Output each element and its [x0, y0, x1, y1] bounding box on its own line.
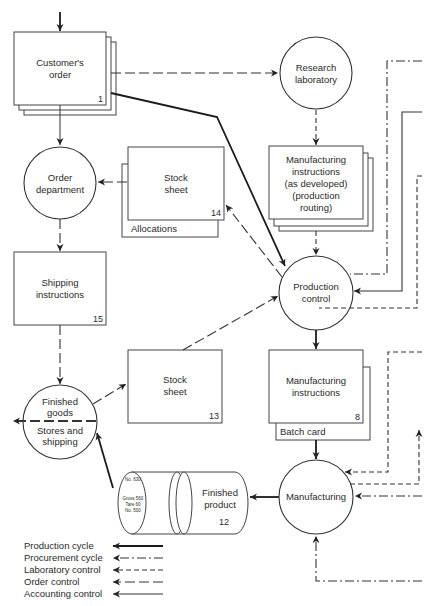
svg-text:department: department — [36, 184, 84, 195]
svg-text:No. 630: No. 630 — [125, 477, 141, 482]
goods-to-stock13-arrow — [93, 384, 126, 404]
product-to-goods-arrow — [97, 433, 113, 488]
svg-text:13: 13 — [209, 411, 219, 421]
svg-text:Manufacturing: Manufacturing — [286, 154, 346, 165]
stock-sheet-14-node: Stock sheet 14 Allocations — [122, 147, 224, 237]
legend-production-cycle: Production cycle — [24, 540, 94, 551]
svg-text:Shipping: Shipping — [42, 277, 79, 288]
svg-text:Finished: Finished — [202, 487, 238, 498]
svg-text:goods: goods — [47, 407, 73, 418]
procurement-line-bottom — [316, 536, 422, 581]
customers-order-node: Customer's order 1 — [14, 32, 116, 115]
allocations-label: Allocations — [131, 223, 177, 234]
svg-text:sheet: sheet — [163, 386, 187, 397]
svg-text:(production: (production — [292, 190, 340, 201]
customers-order-label: Customer's — [36, 57, 84, 68]
svg-text:instructions: instructions — [292, 166, 340, 177]
finished-goods-node: Finished goods Stores and shipping — [23, 385, 97, 459]
svg-text:laboratory: laboratory — [295, 74, 337, 85]
svg-text:Manufacturing: Manufacturing — [286, 375, 346, 386]
svg-text:product: product — [204, 499, 236, 510]
svg-text:Stores and: Stores and — [37, 425, 83, 436]
svg-text:routing): routing) — [300, 202, 332, 213]
svg-text:8: 8 — [355, 412, 360, 422]
svg-text:Production: Production — [293, 281, 338, 292]
svg-text:14: 14 — [211, 208, 221, 218]
legend: Production cycle Procurement cycle Labor… — [24, 540, 163, 599]
svg-text:Finished: Finished — [42, 396, 78, 407]
svg-text:Manufacturing: Manufacturing — [286, 491, 346, 502]
svg-text:Order: Order — [48, 172, 72, 183]
svg-text:control: control — [302, 293, 331, 304]
svg-text:15: 15 — [93, 314, 103, 324]
legend-accounting-control: Accounting control — [24, 588, 102, 599]
finished-product-node: No. 630 Gross 560 Tare 60 No. 500 Finish… — [118, 472, 248, 534]
svg-text:Gross 560: Gross 560 — [123, 496, 144, 501]
svg-text:(as developed): (as developed) — [285, 178, 348, 189]
svg-text:instructions: instructions — [36, 289, 84, 300]
svg-text:12: 12 — [219, 517, 229, 527]
production-control-node: Production control — [279, 256, 353, 330]
svg-text:Research: Research — [296, 62, 337, 73]
research-laboratory-node: Research laboratory — [280, 37, 352, 109]
stock-sheet-13-node: Stock sheet 13 — [128, 350, 222, 423]
legend-procurement-cycle: Procurement cycle — [24, 552, 103, 563]
form-number: 1 — [98, 94, 103, 104]
svg-text:Stock: Stock — [163, 374, 187, 385]
order-department-node: Order department — [24, 147, 96, 219]
legend-order-control: Order control — [24, 576, 79, 587]
svg-text:order: order — [49, 69, 71, 80]
legend-laboratory-control: Laboratory control — [24, 564, 101, 575]
manufacturing-node: Manufacturing — [279, 460, 353, 534]
batch-card-label: Batch card — [280, 426, 325, 437]
svg-text:sheet: sheet — [164, 184, 188, 195]
stock13-to-control-arrow — [183, 296, 278, 350]
shipping-instructions-node: Shipping instructions 15 — [14, 252, 106, 325]
manufacturing-instructions-node: Manufacturing instructions 8 Batch card — [269, 350, 370, 440]
svg-text:No. 500: No. 500 — [125, 508, 141, 513]
svg-text:shipping: shipping — [42, 436, 77, 447]
svg-text:instructions: instructions — [292, 387, 340, 398]
manufacturing-instructions-developed-node: Manufacturing instructions (as developed… — [269, 146, 373, 231]
production-flow-diagram: Customer's order 1 Research laboratory O… — [0, 0, 428, 606]
svg-text:Stock: Stock — [164, 172, 188, 183]
svg-text:Tare 60: Tare 60 — [125, 502, 141, 507]
